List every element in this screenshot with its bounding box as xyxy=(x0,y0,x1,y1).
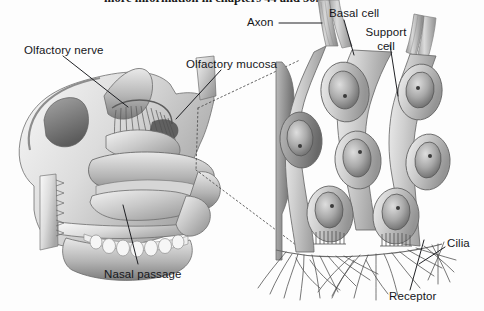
nucleolus xyxy=(330,204,334,208)
nucleolus xyxy=(416,86,420,90)
nucleolus xyxy=(343,94,347,98)
label-olfactory-mucosa: Olfactory mucosa xyxy=(186,58,277,72)
olfactory-epithelium-detail xyxy=(258,0,456,300)
label-receptor: Receptor xyxy=(389,290,436,304)
nucleolus xyxy=(428,154,432,158)
label-support-cell: Support cell xyxy=(360,26,412,53)
nucleolus xyxy=(358,150,362,154)
nucleolus xyxy=(396,206,400,210)
label-support-cell-line2: cell xyxy=(377,40,395,52)
label-basal-cell: Basal cell xyxy=(329,7,379,21)
label-axon: Axon xyxy=(247,16,274,30)
label-olfactory-nerve: Olfactory nerve xyxy=(24,44,103,58)
nucleolus xyxy=(298,144,302,148)
leader-receptor xyxy=(410,240,424,290)
label-support-cell-line1: Support xyxy=(366,26,407,38)
sagittal-nasal-cavity xyxy=(19,56,220,280)
label-cilia: Cilia xyxy=(447,237,470,251)
anatomy-figure: more information in chapters 44 and 50. xyxy=(0,0,484,311)
label-nasal-passage: Nasal passage xyxy=(104,268,181,282)
